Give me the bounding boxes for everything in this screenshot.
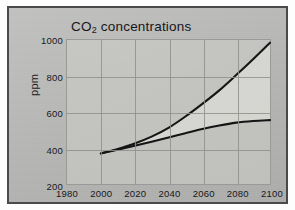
x-tick-label: 2060 xyxy=(193,188,215,199)
y-tick-label: 400 xyxy=(47,144,63,155)
gridline-vertical xyxy=(101,40,102,184)
chart-title-rest: concentrations xyxy=(97,19,192,34)
x-tick-label: 2080 xyxy=(227,188,249,199)
gridline-vertical xyxy=(135,40,136,184)
y-tick-label: 800 xyxy=(47,71,63,82)
series-curves xyxy=(67,40,270,184)
chart-title-main: CO xyxy=(71,19,92,34)
gridline-horizontal xyxy=(67,150,270,151)
x-tick-label: 2040 xyxy=(159,188,181,199)
screenshot-root: CO2 concentrations ppm 20040060080010001… xyxy=(0,0,295,210)
gridline-horizontal xyxy=(67,113,270,114)
y-axis-title: ppm xyxy=(28,74,40,96)
gridline-vertical xyxy=(238,40,239,184)
x-tick-label: 2100 xyxy=(261,188,283,199)
y-tick-label: 600 xyxy=(47,108,63,119)
gridline-vertical xyxy=(204,40,205,184)
uncertainty-band-fill xyxy=(101,43,270,154)
gridline-horizontal xyxy=(67,77,270,78)
plot-area: 2004006008001000198020002020204020602080… xyxy=(66,39,271,185)
chart-title-subscript: 2 xyxy=(92,25,97,35)
y-tick-label: 1000 xyxy=(41,35,63,46)
figure-frame: CO2 concentrations ppm 20040060080010001… xyxy=(7,6,288,204)
x-tick-label: 1980 xyxy=(56,188,78,199)
chart-title: CO2 concentrations xyxy=(71,19,191,34)
gridline-vertical xyxy=(170,40,171,184)
x-tick-label: 2000 xyxy=(90,188,112,199)
x-tick-label: 2020 xyxy=(124,188,146,199)
